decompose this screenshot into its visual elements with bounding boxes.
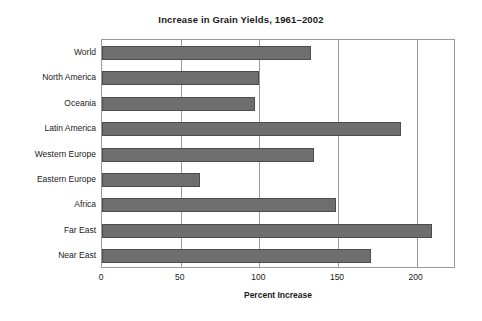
- bars-group: [102, 40, 454, 267]
- bar-row: [102, 46, 456, 60]
- bar-row: [102, 249, 456, 263]
- bar-world: [102, 46, 311, 60]
- bar-row: [102, 173, 456, 187]
- x-axis-title: Percent Increase: [101, 290, 455, 300]
- bar-row: [102, 97, 456, 111]
- bar-latin-america: [102, 122, 401, 136]
- x-tick-200: 200: [409, 272, 423, 282]
- bar-eastern-europe: [102, 173, 200, 187]
- grain-yields-bar-chart: Increase in Grain Yields, 1961–2002 Worl…: [0, 0, 482, 321]
- bar-row: [102, 71, 456, 85]
- category-label-western-europe: Western Europe: [0, 149, 96, 159]
- bar-row: [102, 122, 456, 136]
- bar-row: [102, 198, 456, 212]
- category-label-oceania: Oceania: [0, 98, 96, 108]
- x-tick-100: 100: [251, 272, 265, 282]
- x-tick-50: 50: [175, 272, 184, 282]
- bar-row: [102, 148, 456, 162]
- bar-row: [102, 224, 456, 238]
- bar-far-east: [102, 224, 432, 238]
- chart-title: Increase in Grain Yields, 1961–2002: [0, 14, 482, 25]
- category-axis-labels: WorldNorth AmericaOceaniaLatin AmericaWe…: [0, 39, 96, 268]
- x-tick-0: 0: [99, 272, 104, 282]
- category-label-eastern-europe: Eastern Europe: [0, 174, 96, 184]
- category-label-world: World: [0, 47, 96, 57]
- bar-near-east: [102, 249, 371, 263]
- category-label-north-america: North America: [0, 72, 96, 82]
- category-label-latin-america: Latin America: [0, 123, 96, 133]
- plot-area: [101, 39, 455, 268]
- category-label-near-east: Near East: [0, 250, 96, 260]
- bar-oceania: [102, 97, 255, 111]
- category-label-far-east: Far East: [0, 225, 96, 235]
- bar-africa: [102, 198, 336, 212]
- x-axis-tick-labels: 050100150200: [0, 272, 482, 286]
- bar-north-america: [102, 71, 259, 85]
- x-tick-150: 150: [330, 272, 344, 282]
- bar-western-europe: [102, 148, 314, 162]
- category-label-africa: Africa: [0, 199, 96, 209]
